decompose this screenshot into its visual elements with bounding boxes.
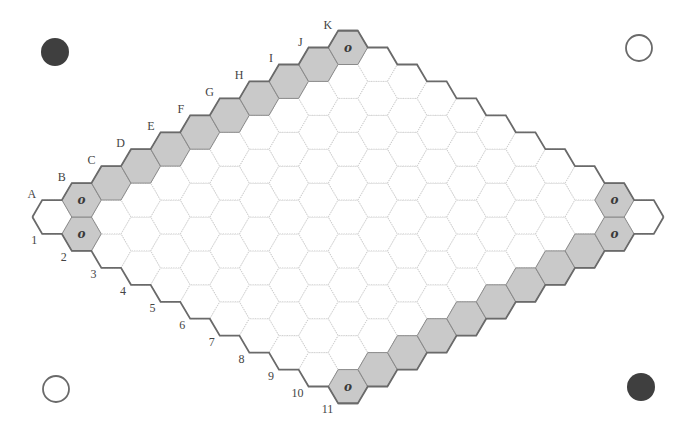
hex-board: oooooo ABCDEFGHIJK1234567891011 (0, 0, 690, 428)
cell-mark-A11: o (344, 380, 352, 394)
column-label-C: C (87, 153, 95, 167)
column-label-J: J (298, 35, 303, 49)
stone-bottom-left-white (43, 376, 69, 402)
row-label-4: 4 (120, 284, 126, 298)
column-label-F: F (178, 102, 185, 116)
cell-mark-J11: o (610, 227, 618, 241)
cell-mark-A2: o (78, 227, 86, 241)
column-label-A: A (28, 187, 37, 201)
cell-mark-K1: o (344, 41, 352, 55)
row-label-5: 5 (150, 301, 156, 315)
column-label-G: G (205, 85, 214, 99)
stone-top-right-white (626, 35, 652, 61)
row-label-3: 3 (90, 267, 96, 281)
column-label-B: B (58, 170, 66, 184)
row-label-10: 10 (292, 386, 304, 400)
stone-bottom-right-black (627, 373, 655, 401)
row-label-2: 2 (61, 250, 67, 264)
row-label-8: 8 (238, 352, 244, 366)
row-label-9: 9 (268, 369, 274, 383)
column-label-H: H (235, 68, 244, 82)
stone-top-left-black (41, 38, 69, 66)
cell-mark-K10: o (610, 193, 618, 207)
cell-mark-B1: o (78, 193, 86, 207)
row-label-7: 7 (209, 335, 215, 349)
column-label-I: I (269, 51, 273, 65)
board-cells (32, 31, 663, 404)
row-label-6: 6 (179, 318, 185, 332)
column-label-K: K (324, 18, 333, 32)
row-label-1: 1 (31, 233, 37, 247)
column-label-E: E (147, 119, 154, 133)
row-label-11: 11 (322, 402, 334, 416)
column-label-D: D (116, 136, 125, 150)
